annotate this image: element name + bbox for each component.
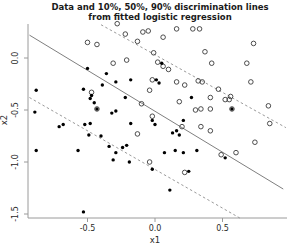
data-point-open-circle (197, 27, 202, 32)
data-point-open-circle (245, 61, 250, 66)
data-point-open-circle (208, 95, 213, 100)
data-point-filled-dot (89, 122, 92, 125)
data-point-filled-dot (160, 62, 163, 65)
data-point-filled-dot (87, 133, 90, 136)
data-point-filled-dot (35, 89, 38, 92)
data-point-open-circle (182, 170, 187, 175)
data-point-open-circle (253, 140, 258, 145)
data-point-open-circle (174, 80, 179, 85)
data-point-open-circle (199, 124, 204, 129)
data-point-filled-dot (76, 149, 79, 152)
x-axis-tick-label: 0.5 (216, 224, 229, 233)
data-point-open-circle (199, 107, 204, 112)
data-point-open-circle (155, 60, 160, 65)
data-point-filled-dot (163, 151, 166, 154)
data-point-filled-dot (90, 94, 93, 97)
data-point-filled-dot (121, 146, 124, 149)
discrimination-line-dashed (29, 98, 240, 219)
data-point-open-circle (85, 40, 90, 45)
data-point-open-circle (219, 152, 224, 157)
data-point-filled-dot (151, 119, 154, 122)
data-point-filled-dot (129, 122, 132, 125)
data-point-filled-dot (155, 78, 158, 81)
data-point-filled-dot (178, 133, 181, 136)
data-point-filled-dot (114, 151, 117, 154)
data-point-filled-dot (182, 151, 185, 154)
data-point-open-circle (251, 41, 256, 46)
data-point-open-circle (150, 114, 155, 119)
y-axis-tick-label: 0.0 (11, 52, 20, 65)
data-point-filled-dot (99, 134, 102, 137)
data-point-filled-dot (83, 123, 86, 126)
data-point-filled-dot (105, 72, 108, 75)
x-axis-tick-label: 0.0 (149, 224, 162, 233)
data-point-filled-dot (168, 188, 171, 191)
data-point-open-circle (150, 78, 155, 83)
data-point-open-circle (161, 35, 166, 40)
data-point-open-circle (267, 121, 272, 126)
data-point-filled-dot (151, 168, 154, 171)
y-axis-tick-label: -0.5 (11, 102, 20, 118)
data-point-open-circle (209, 61, 214, 66)
data-point-filled-dot (89, 97, 92, 100)
data-point-filled-dot (230, 107, 233, 110)
x-axis-tick-label: -0.5 (80, 224, 96, 233)
data-point-filled-dot (174, 149, 177, 152)
data-point-filled-dot (57, 125, 60, 128)
data-point-open-circle (193, 108, 198, 113)
x-axis-title: x1 (150, 235, 160, 245)
scatter-plot-canvas: -0.50.00.50.0-0.5-1.0-1.5x1x2 (0, 0, 288, 252)
data-point-open-circle (266, 104, 271, 109)
data-point-filled-dot (128, 160, 131, 163)
data-point-open-circle (135, 39, 140, 44)
data-point-open-circle (166, 67, 171, 72)
data-point-open-circle (111, 61, 116, 66)
data-point-open-circle (234, 150, 239, 155)
data-point-filled-dot (224, 156, 227, 159)
y-axis-tick-label: -1.5 (11, 206, 20, 222)
plot-figure: Data and 10%, 50%, 90% discrimination li… (0, 0, 288, 252)
data-point-open-circle (141, 30, 146, 35)
data-point-filled-dot (175, 129, 178, 132)
data-point-open-circle (249, 80, 254, 85)
data-point-filled-dot (111, 158, 114, 161)
data-point-filled-dot (157, 81, 160, 84)
data-point-filled-dot (195, 149, 198, 152)
data-point-open-circle (174, 27, 179, 32)
y-axis-title: x2 (0, 115, 9, 125)
data-point-filled-dot (82, 210, 85, 213)
data-point-open-circle (177, 99, 182, 104)
data-point-open-circle (216, 87, 221, 92)
data-point-open-circle (146, 29, 151, 34)
discrimination-line-50 (29, 35, 283, 189)
data-point-filled-dot (171, 131, 174, 134)
data-point-filled-dot (107, 145, 110, 148)
data-point-filled-dot (129, 78, 132, 81)
data-point-filled-dot (62, 123, 65, 126)
data-point-filled-dot (153, 123, 156, 126)
data-point-filled-dot (82, 88, 85, 91)
data-point-open-circle (123, 32, 128, 37)
data-point-filled-dot (124, 96, 127, 99)
data-point-open-circle (191, 27, 196, 32)
data-point-filled-dot (125, 144, 128, 147)
data-point-filled-dot (35, 149, 38, 152)
data-point-filled-dot (101, 83, 104, 86)
data-point-open-circle (147, 160, 152, 165)
data-point-open-circle (124, 58, 129, 63)
data-point-filled-dot (110, 111, 113, 114)
data-point-filled-dot (182, 119, 185, 122)
data-point-open-circle (208, 129, 213, 134)
data-point-open-circle (203, 49, 208, 54)
data-point-open-circle (182, 83, 187, 88)
data-point-filled-dot (93, 101, 96, 104)
data-point-filled-dot (86, 67, 89, 70)
data-point-filled-dot (114, 109, 117, 112)
y-axis-tick-label: -1.0 (11, 154, 20, 170)
data-point-open-circle (135, 132, 140, 137)
data-point-filled-dot (114, 80, 117, 83)
data-point-open-circle (95, 42, 100, 47)
data-point-open-circle (208, 107, 213, 112)
discrimination-line-dashed (101, 25, 286, 128)
data-point-filled-dot (33, 110, 36, 113)
